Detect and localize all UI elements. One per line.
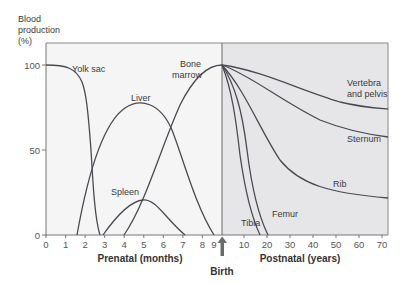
svg-text:4: 4 [122,239,127,250]
svg-text:6: 6 [161,239,166,250]
svg-text:3: 3 [102,239,107,250]
postnatal-axis-title: Postnatal (years) [260,253,341,264]
svg-text:8: 8 [200,239,205,250]
birth-arrow-icon [218,237,228,257]
y-axis-title-line2: production [18,25,60,35]
svg-text:7: 7 [180,239,185,250]
y-axis-title-line1: Blood [18,14,41,24]
label-and-pelvis: and pelvis [347,89,388,99]
label-tibia: Tibia [241,218,260,228]
y-tick-50: 50 [29,145,40,156]
svg-text:9: 9 [211,239,216,250]
label-marrow: marrow [172,70,203,80]
svg-text:1: 1 [63,239,68,250]
label-bone: Bone [180,59,201,69]
prenatal-x-ticks: 0 1 2 3 4 5 6 7 8 9 [43,235,216,250]
svg-text:70: 70 [377,239,388,250]
svg-text:50: 50 [331,239,342,250]
label-yolk-sac: Yolk sac [72,64,106,74]
prenatal-axis-title: Prenatal (months) [97,253,182,264]
blood-production-chart: 100 50 0 0 1 2 3 4 5 6 7 8 9 10 20 30 [0,0,408,283]
birth-label: Birth [210,266,233,277]
svg-text:5: 5 [141,239,146,250]
label-vertebra: Vertebra [347,78,381,88]
label-liver: Liver [131,93,151,103]
svg-text:10: 10 [239,239,250,250]
y-ticks: 100 50 0 [24,60,46,241]
label-spleen: Spleen [111,187,139,197]
y-axis-title-line3: (%) [18,36,32,46]
svg-text:2: 2 [82,239,87,250]
label-femur: Femur [272,209,298,219]
postnatal-x-ticks: 10 20 30 40 50 60 70 [239,235,388,250]
label-sternum: Sternum [347,134,381,144]
svg-text:20: 20 [262,239,273,250]
svg-text:40: 40 [308,239,319,250]
y-tick-100: 100 [24,60,40,71]
label-rib: Rib [333,179,347,189]
svg-text:0: 0 [43,239,48,250]
svg-text:60: 60 [354,239,365,250]
svg-text:30: 30 [285,239,296,250]
y-tick-0: 0 [35,230,40,241]
